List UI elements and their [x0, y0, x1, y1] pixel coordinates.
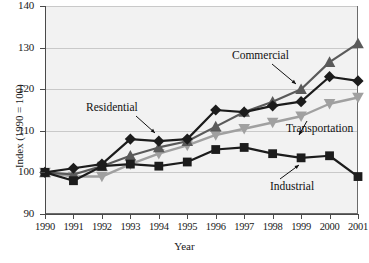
series-label-commercial: Commercial — [232, 49, 289, 61]
x-axis-tick-label: 1992 — [86, 221, 118, 232]
x-axis-tick-label: 2001 — [342, 221, 369, 232]
annotation-leader-line — [272, 64, 296, 84]
x-axis-tick-label: 1998 — [257, 221, 289, 232]
data-point-marker — [268, 149, 277, 158]
data-point-marker — [352, 75, 363, 86]
data-point-marker — [297, 153, 306, 162]
y-axis-tick — [40, 6, 45, 7]
x-axis-tick — [301, 214, 302, 219]
x-axis-tick-label: 1994 — [143, 221, 175, 232]
data-point-marker — [154, 162, 163, 171]
x-axis-tick-label: 1991 — [57, 221, 89, 232]
x-axis-tick — [102, 214, 103, 219]
x-axis-tick — [130, 214, 131, 219]
data-point-marker — [267, 100, 278, 111]
x-axis-tick-label: 1996 — [200, 221, 232, 232]
y-axis-tick — [40, 172, 45, 173]
data-point-marker — [183, 158, 192, 167]
x-axis-tick — [330, 214, 331, 219]
y-axis-tick-label: 110 — [8, 125, 34, 136]
data-point-marker — [325, 151, 334, 160]
y-axis-tick — [40, 48, 45, 49]
x-axis-tick — [45, 214, 46, 219]
y-axis-tick — [40, 89, 45, 90]
x-axis-tick-label: 1993 — [114, 221, 146, 232]
data-point-marker — [210, 121, 222, 132]
x-axis-tick-label: 1995 — [171, 221, 203, 232]
y-axis-tick-label: 130 — [8, 42, 34, 53]
series-industrial — [41, 143, 363, 185]
x-axis-tick — [358, 214, 359, 219]
y-axis-tick — [40, 131, 45, 132]
y-axis-tick-label: 100 — [8, 166, 34, 177]
data-point-marker — [352, 38, 364, 49]
y-axis-tick-label: 90 — [8, 208, 34, 219]
series-label-transportation: Transportation — [286, 122, 353, 134]
data-point-marker — [153, 136, 164, 147]
x-axis-tick-label: 2000 — [314, 221, 346, 232]
x-axis-tick — [187, 214, 188, 219]
x-axis-tick — [216, 214, 217, 219]
x-axis-tick-label: 1999 — [285, 221, 317, 232]
series-label-residential: Residential — [86, 101, 138, 113]
x-axis-tick — [244, 214, 245, 219]
x-axis-tick-label: 1997 — [228, 221, 260, 232]
data-point-marker — [69, 176, 78, 185]
data-point-marker — [324, 56, 336, 67]
data-point-marker — [126, 160, 135, 169]
series-label-industrial: Industrial — [270, 180, 314, 192]
chart-figure: Index (1990 = 100) Year Residential Comm… — [0, 0, 369, 263]
y-axis-tick-label: 120 — [8, 83, 34, 94]
data-point-marker — [211, 145, 220, 154]
x-axis-tick-label: 1990 — [29, 221, 61, 232]
x-axis-tick — [273, 214, 274, 219]
data-point-marker — [354, 172, 363, 181]
x-axis-tick — [159, 214, 160, 219]
x-axis-tick — [73, 214, 74, 219]
y-axis-tick-label: 140 — [8, 0, 34, 11]
data-point-marker — [240, 143, 249, 152]
